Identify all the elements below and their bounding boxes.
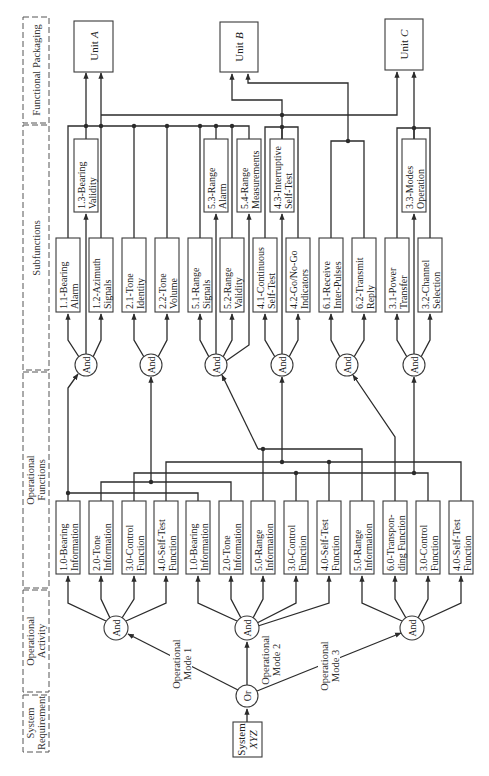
- mode-1-label: Operational Mode 1: [170, 634, 193, 694]
- or-gate: Or: [236, 685, 258, 707]
- subfunction-box: 5.4-Range Measurements: [237, 139, 261, 212]
- and-gate: And: [271, 354, 293, 376]
- box-label-line1: 5.0-Range: [253, 529, 264, 571]
- box-label-line2: Inter-Pulses: [332, 261, 343, 309]
- box-label-line1: 3.3-Modes: [404, 166, 415, 209]
- subfunction-box: 2.1-Tone Identity: [122, 238, 146, 312]
- box-label-line2: Alarm: [69, 283, 80, 309]
- unit-label: UnitA: [88, 31, 100, 61]
- level-operational-functions: Operational Functions: [23, 372, 49, 588]
- operational-function-box: 1.0-Bearing Information: [186, 501, 210, 574]
- box-label-line2: Reply: [365, 285, 376, 309]
- unit-label: UnitC: [398, 29, 410, 60]
- subfunction-box: 5.1-Range Signals: [188, 238, 212, 312]
- box-label-line1: 2.1-Tone: [124, 273, 135, 309]
- and-gate: And: [403, 354, 425, 376]
- box-label-line1: 5.3-Range: [206, 167, 217, 209]
- box-label-line1: 3.2-Channel: [420, 260, 431, 309]
- and-gate-mode-2: And: [235, 616, 259, 640]
- subfunction-box: 6.2-Transmit Reply: [352, 238, 376, 312]
- box-label-line2: Self-Test: [283, 173, 294, 209]
- operational-function-box: 5.0-Range Information: [350, 501, 374, 574]
- level-label-line2: Activity: [36, 623, 47, 658]
- mode-3-label: Operational Mode 3: [318, 636, 341, 696]
- level-functional-packaging: Functional Packaging: [23, 17, 49, 123]
- level-label-line1: Operational: [25, 616, 36, 666]
- gate-label: And: [242, 619, 253, 636]
- mode-labels: Operational Mode 1 Operational Mode 2 Op…: [170, 634, 341, 696]
- box-label-line2: Signals: [102, 279, 113, 309]
- box-label-line2: Function: [135, 535, 146, 571]
- unit-c-box: UnitC: [385, 19, 423, 70]
- box-label-line1: 3.1-Power: [387, 267, 398, 309]
- subfunction-box: 3.1-Power Transfer: [385, 238, 409, 312]
- level-label-line1: Operational: [25, 455, 36, 505]
- level-operational-activity: Operational Activity: [23, 590, 49, 692]
- and-gate: And: [75, 354, 97, 376]
- box-label-line1: 2.0-Tone: [91, 535, 102, 571]
- box-label-line1: 5.1-Range: [190, 267, 201, 309]
- unit-label: UnitB: [233, 32, 245, 62]
- subfunction-box: 3.2-Channel Selection: [418, 238, 442, 312]
- mode-label-line2: Mode 3: [330, 650, 341, 682]
- gate-label: And: [407, 619, 418, 636]
- system-xyz-box: System XYZ: [233, 722, 262, 757]
- box-label-line2: Indicators: [299, 269, 310, 309]
- operational-function-box: 6.0-Transpon- ding Function: [383, 501, 407, 574]
- box-label-line2: Selection: [431, 272, 442, 309]
- functional-units: UnitA UnitB UnitC: [74, 19, 423, 72]
- level-label: Functional Packaging: [31, 24, 42, 116]
- level-label-line1: System: [25, 708, 36, 739]
- subfunction-box: 1.3-Bearing Validity: [74, 139, 98, 212]
- and-gate: And: [140, 354, 162, 376]
- box-label-line1: 1.3-Bearing: [76, 162, 87, 210]
- gate-label: And: [111, 619, 122, 636]
- gate-label: And: [342, 356, 353, 373]
- and-gate: And: [205, 354, 227, 376]
- box-label-line2: Function: [462, 535, 473, 571]
- box-label-line1: 4.2-Go/No-Go: [288, 250, 299, 309]
- mode-label-line2: Mode 2: [271, 644, 282, 676]
- operational-function-box: 3.0-Control Function: [284, 501, 308, 574]
- box-label-line1: 4.0-Self-Test: [451, 519, 462, 571]
- subfunction-box: 5.2-Range Validity: [220, 238, 244, 312]
- box-label-line2: Information: [199, 523, 210, 571]
- subfunction-box: 4.1-Continuous Self-Test: [253, 238, 277, 312]
- operational-function-box: 3.0-Control Function: [122, 501, 146, 574]
- box-label-line2: Function: [330, 535, 341, 571]
- functional-decomposition-diagram: Functional Packaging Subfunctions Operat…: [0, 0, 489, 776]
- box-label-line1: 6.2-Transmit: [354, 257, 365, 309]
- box-label-line1: 5.4-Range: [239, 167, 250, 209]
- gate-label: And: [146, 356, 157, 373]
- subfunction-box: 4.2-Go/No-Go Indicators: [286, 238, 310, 312]
- unit-b-box: UnitB: [220, 22, 258, 72]
- box-label-line2: Validity: [87, 177, 98, 209]
- box-label-line2: Volume: [168, 278, 179, 309]
- level-label: Subfunctions: [31, 220, 42, 275]
- mode-2-label: Operational Mode 2: [260, 635, 282, 685]
- gate-label: And: [81, 356, 92, 373]
- operational-function-box: 1.0-Bearing Information: [56, 501, 80, 574]
- box-label-line1: 1.1-Bearing: [58, 262, 69, 310]
- mode-label-line1: Operational: [260, 635, 271, 685]
- mode-label-line1: Operational: [319, 641, 330, 691]
- and-gate: And: [336, 354, 358, 376]
- gate-label: And: [211, 356, 222, 373]
- box-label-line1: 4.1-Continuous: [255, 247, 266, 309]
- unit-a-box: UnitA: [74, 21, 113, 72]
- subfunction-box: 2.2-Tone Volume: [155, 238, 179, 312]
- system-label-line2: XYZ: [247, 729, 259, 750]
- box-label-line1: 4.3-Interruptive: [272, 145, 283, 209]
- gate-label: Or: [242, 690, 253, 701]
- box-label-line2: Identity: [135, 278, 146, 309]
- box-label-line2: Measurements: [250, 151, 261, 209]
- box-label-line1: 1.2-Azimuth: [91, 258, 102, 309]
- box-label-line1: 4.0-Self-Test: [319, 519, 330, 571]
- box-label-line2: Alarm: [217, 183, 228, 209]
- box-label-line2: Information: [102, 523, 113, 571]
- box-label-line2: Information: [264, 523, 275, 571]
- operational-function-box: 4.0-Self-Test Function: [449, 501, 473, 574]
- box-label-line1: 5.0-Range: [352, 529, 363, 571]
- gate-label: And: [409, 356, 420, 373]
- subfunction-box: 4.3-Interruptive Self-Test: [270, 139, 294, 212]
